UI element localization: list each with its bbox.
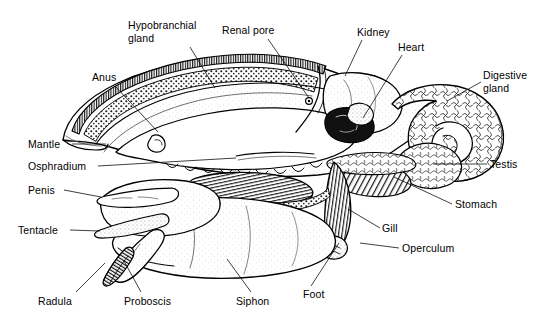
label-hypobranchial-gland: Hypobranchial gland xyxy=(128,19,196,44)
leader-foot xyxy=(311,243,339,286)
leader-digestive-gland xyxy=(447,82,481,101)
label-radula: Radula xyxy=(38,295,72,308)
leader-renal-pore xyxy=(268,39,309,98)
label-proboscis: Proboscis xyxy=(124,295,171,308)
label-stomach: Stomach xyxy=(455,198,497,211)
label-tentacle: Tentacle xyxy=(18,224,58,237)
leader-hypobranchial-gland xyxy=(190,47,215,88)
leader-siphon xyxy=(227,259,251,292)
leader-proboscis xyxy=(124,261,141,292)
label-gill: Gill xyxy=(382,222,398,235)
leader-penis xyxy=(64,190,101,197)
leader-anus xyxy=(115,86,158,132)
label-anus: Anus xyxy=(92,71,116,84)
leader-kidney xyxy=(345,40,362,76)
label-mantle: Mantle xyxy=(28,138,60,151)
leader-gill xyxy=(348,209,380,228)
label-testis: Testis xyxy=(490,158,517,171)
label-osphradium: Osphradium xyxy=(28,160,86,173)
leader-heart xyxy=(363,55,402,118)
leader-stomach xyxy=(394,177,452,204)
leader-operculum xyxy=(360,243,399,248)
label-digestive-gland: Digestive gland xyxy=(483,69,527,94)
label-heart: Heart xyxy=(398,41,424,54)
label-siphon: Siphon xyxy=(236,295,269,308)
label-renal-pore: Renal pore xyxy=(222,24,274,37)
anatomy-figure: Hypobranchial gland Renal pore Kidney He… xyxy=(0,0,543,325)
label-operculum: Operculum xyxy=(402,242,454,255)
label-penis: Penis xyxy=(28,184,55,197)
leader-radula xyxy=(76,263,105,292)
label-kidney: Kidney xyxy=(357,26,390,39)
leader-osphradium xyxy=(98,158,236,166)
label-foot: Foot xyxy=(303,288,324,301)
leader-tentacle xyxy=(70,230,100,231)
